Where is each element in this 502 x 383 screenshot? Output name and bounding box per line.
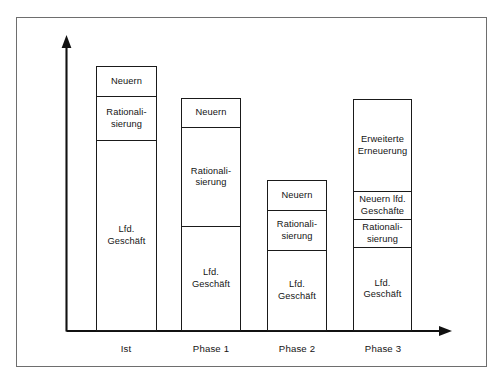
plot-area: Neuern Rationali- sierung Lfd. Geschäft …	[0, 0, 502, 383]
x-tick-label-ist: Ist	[121, 343, 132, 354]
bar-segment-rationalisierung: Rationali- sierung	[268, 211, 326, 251]
bar-segment-lfd-geschaeft: Lfd. Geschäft	[97, 141, 156, 330]
bar-segment-lfd-geschaeft: Lfd. Geschäft	[268, 251, 326, 330]
bar-segment-rationalisierung: Rationali- sierung	[97, 97, 156, 141]
bar-segment-neuern: Neuern	[182, 99, 240, 128]
x-tick-label-phase-1: Phase 1	[193, 343, 229, 354]
bar-phase-2[interactable]: Neuern Rationali- sierung Lfd. Geschäft	[267, 180, 327, 331]
x-tick-label-phase-3: Phase 3	[365, 343, 401, 354]
bar-ist[interactable]: Neuern Rationali- sierung Lfd. Geschäft	[96, 66, 157, 331]
stacked-bar-figure: Neuern Rationali- sierung Lfd. Geschäft …	[0, 0, 502, 383]
bar-segment-rationalisierung: Rationali- sierung	[182, 128, 240, 227]
x-tick-label-phase-2: Phase 2	[279, 343, 315, 354]
bar-segment-neuern: Neuern	[268, 181, 326, 211]
bar-segment-erweiterte-erneuerung: Erweiterte Erneuerung	[354, 100, 411, 192]
bar-segment-lfd-geschaeft: Lfd. Geschäft	[182, 227, 240, 330]
bar-phase-1[interactable]: Neuern Rationali- sierung Lfd. Geschäft	[181, 98, 241, 331]
bar-segment-neuern: Neuern	[97, 67, 156, 97]
bar-segment-lfd-geschaeft: Lfd. Geschäft	[354, 248, 411, 330]
bar-segment-rationalisierung: Rationali- sierung	[354, 220, 411, 248]
bar-phase-3[interactable]: Erweiterte Erneuerung Neuern lfd. Geschä…	[353, 99, 412, 331]
bar-segment-neuern-lfd-geschaefte: Neuern lfd. Geschäfte	[354, 192, 411, 220]
